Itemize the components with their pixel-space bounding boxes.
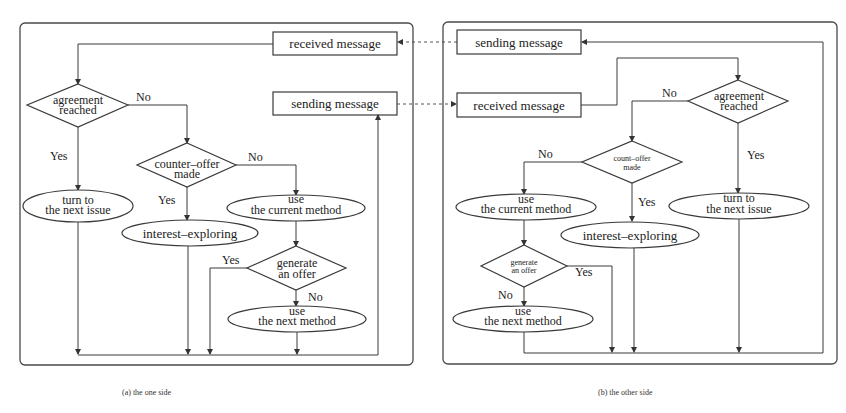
interest-text-left: interest–exploring: [143, 226, 238, 241]
label-yes-agreement-right: Yes: [747, 148, 765, 162]
generate-text-2-left: an offer: [278, 267, 315, 281]
agreement-text-2-right: reached: [720, 99, 757, 113]
sending-message-label-right: sending message: [475, 35, 563, 50]
received-message-label-left: received message: [289, 36, 381, 51]
panel-one-side: received message sending message agreeme…: [20, 23, 413, 397]
turn-to-text-2-left: the next issue: [45, 203, 110, 217]
panel-other-side: sending message received message agreeme…: [443, 22, 837, 397]
caption-right: (b) the other side: [598, 388, 653, 397]
edge-agreement-no-right: [632, 101, 688, 141]
edge-received-to-agreement-left: [78, 44, 273, 84]
use-next-text-2-left: the next method: [258, 314, 335, 328]
turn-to-text-2-right: the next issue: [706, 202, 771, 216]
negotiation-flowchart: received message sending message agreeme…: [0, 0, 846, 413]
edge-agreement-no-left: [128, 105, 187, 143]
label-no-generate-right: No: [498, 288, 513, 302]
use-current-text-2-right: the current method: [481, 202, 572, 216]
use-next-text-2-right: the next method: [484, 314, 561, 328]
label-yes-count-right: Yes: [638, 195, 656, 209]
label-yes-generate-right: Yes: [575, 265, 593, 279]
edge-counter-no-left: [236, 165, 296, 195]
caption-left: (a) the one side: [122, 388, 172, 397]
received-message-label-right: received message: [473, 98, 565, 113]
sending-message-label-left: sending message: [291, 96, 379, 111]
label-no-agreement-right: No: [662, 86, 677, 100]
label-no-generate-left: No: [308, 290, 323, 304]
count-offer-text-1-right: count–offer: [613, 154, 651, 163]
generate-text-2-right: an offer: [512, 266, 537, 275]
agreement-text-2-left: reached: [59, 103, 96, 117]
interest-text-right: interest–exploring: [583, 228, 678, 243]
use-current-text-2-left: the current method: [251, 203, 342, 217]
label-yes-counter-left: Yes: [158, 193, 176, 207]
label-no-count-right: No: [538, 147, 553, 161]
label-yes-agreement-left: Yes: [50, 149, 68, 163]
count-offer-text-2-right: made: [623, 163, 641, 172]
label-no-agreement-left: No: [136, 90, 151, 104]
label-yes-generate-left: Yes: [222, 253, 240, 267]
counter-offer-text-2-left: made: [174, 167, 200, 181]
edge-count-no-right: [524, 162, 582, 194]
label-no-counter-left: No: [248, 150, 263, 164]
